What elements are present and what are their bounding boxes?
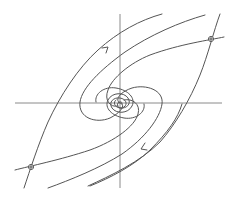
arrow-up-right-icon: [102, 47, 108, 53]
phase-portrait-canvas: [0, 0, 233, 198]
separatrix-lower-left-stable: [24, 14, 162, 188]
phase-portrait-diagram: [0, 0, 233, 198]
separatrix-upper-right-unstable: [107, 37, 224, 106]
trajectory-outer-lower: [48, 87, 162, 188]
arrow-down-left-icon: [141, 143, 147, 150]
